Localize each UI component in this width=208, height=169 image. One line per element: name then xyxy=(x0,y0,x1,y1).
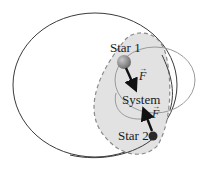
force2-vector-hat: → xyxy=(152,102,160,111)
binary-star-diagram: Star 1 Star 2 System F → F → xyxy=(0,0,208,169)
force1-vector-hat: → xyxy=(139,64,147,73)
star1 xyxy=(117,55,131,69)
star2 xyxy=(149,132,158,141)
star1-label: Star 1 xyxy=(110,40,141,55)
star2-label: Star 2 xyxy=(118,128,149,143)
